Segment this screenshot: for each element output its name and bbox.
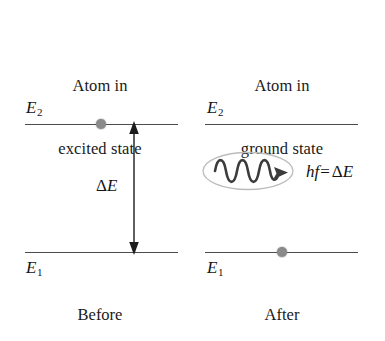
caption-before: Before [12, 307, 188, 324]
energy-level-label-left-lower: E1 [26, 259, 42, 278]
figure-canvas: Atom in excited state Atom in ground sta… [0, 0, 385, 341]
energy-level-label-right-upper-subscript: 2 [218, 106, 224, 118]
photon-frequency-symbol: f [315, 162, 320, 181]
electron-dot-excited-state [96, 119, 106, 129]
panel-title-left-line1: Atom in [12, 75, 188, 96]
energy-level-label-left-upper-symbol: E [26, 98, 36, 117]
photon-energy-symbol: E [343, 162, 353, 181]
photon-wave-packet-icon [201, 150, 301, 194]
energy-level-label-right-lower: E1 [207, 259, 223, 278]
energy-gap-arrow-icon [118, 118, 150, 258]
energy-level-label-right-upper-symbol: E [207, 98, 217, 117]
photon-delta-symbol: Δ [332, 162, 343, 181]
energy-gap-delta-symbol: Δ [96, 176, 107, 195]
energy-level-label-left-upper: E2 [26, 99, 42, 118]
panel-title-left-line2: excited state [12, 138, 188, 159]
photon-planck-constant-symbol: h [306, 162, 315, 181]
energy-level-label-left-upper-subscript: 2 [37, 106, 43, 118]
energy-gap-energy-symbol: E [107, 176, 117, 195]
photon-equals-sign: = [320, 162, 330, 181]
photon-energy-equation: hf=ΔE [306, 163, 353, 180]
energy-level-label-left-lower-subscript: 1 [37, 266, 43, 278]
energy-gap-label: ΔE [96, 177, 117, 194]
energy-level-label-right-upper: E2 [207, 99, 223, 118]
energy-level-label-left-lower-symbol: E [26, 258, 36, 277]
panel-title-right-line1: Atom in [194, 75, 370, 96]
caption-after: After [194, 307, 370, 324]
electron-dot-ground-state [277, 247, 287, 257]
energy-level-label-right-lower-symbol: E [207, 258, 217, 277]
energy-level-label-right-lower-subscript: 1 [218, 266, 224, 278]
energy-level-line-right-upper [205, 124, 358, 125]
energy-level-line-left-lower [25, 252, 178, 253]
